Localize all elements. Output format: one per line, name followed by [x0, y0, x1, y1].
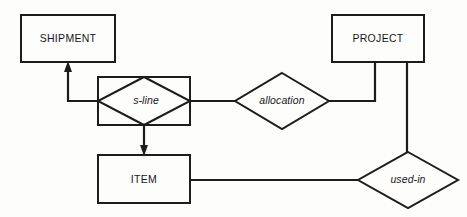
relationship-used-in[interactable]: used-in [358, 152, 458, 208]
entity-shipment-label: SHIPMENT [40, 32, 97, 44]
relationship-s-line[interactable]: s-line [98, 77, 190, 125]
er-diagram-canvas: SHIPMENT PROJECT ITEM s-line allocation … [0, 0, 467, 217]
relationship-allocation[interactable]: allocation [235, 73, 329, 129]
entity-project[interactable]: PROJECT [332, 15, 424, 62]
entity-project-label: PROJECT [352, 32, 403, 44]
entity-item[interactable]: ITEM [98, 155, 190, 203]
relationship-allocation-label: allocation [259, 94, 304, 106]
relationship-used-in-label: used-in [390, 173, 425, 185]
connector-allocation-to-project [328, 61, 375, 101]
relationship-s-line-label: s-line [133, 94, 159, 106]
connector-s-line-to-shipment [68, 68, 98, 101]
entity-item-label: ITEM [131, 173, 157, 185]
er-diagram-svg: SHIPMENT PROJECT ITEM s-line allocation … [0, 0, 467, 217]
entity-shipment[interactable]: SHIPMENT [21, 15, 115, 62]
